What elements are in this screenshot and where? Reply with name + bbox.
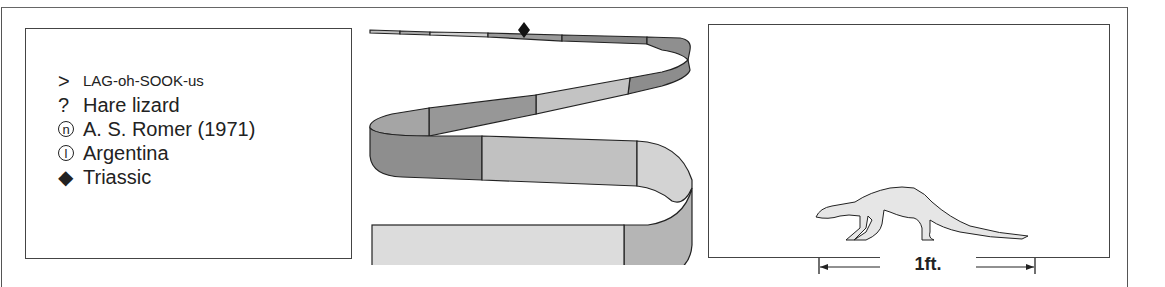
timeline-segment bbox=[372, 225, 624, 265]
timeline-segment bbox=[370, 128, 482, 180]
timeline-segment bbox=[370, 30, 400, 34]
facts-list: > LAG-oh-SOOK-us ? Hare lizard n A. S. R… bbox=[58, 69, 255, 189]
meaning-text: Hare lizard bbox=[83, 93, 180, 117]
fact-pronunciation: > LAG-oh-SOOK-us bbox=[58, 69, 255, 93]
timeline-segment bbox=[482, 136, 637, 186]
period-text: Triassic bbox=[83, 165, 151, 189]
scale-label: 1ft. bbox=[880, 255, 976, 273]
lagosuchus-silhouette bbox=[810, 176, 1040, 246]
pronunciation-text: LAG-oh-SOOK-us bbox=[83, 69, 204, 93]
geologic-timeline-ribbon bbox=[362, 20, 702, 265]
arrow-left-icon bbox=[820, 264, 828, 270]
location-text: Argentina bbox=[83, 141, 169, 165]
fact-location: l Argentina bbox=[58, 141, 255, 165]
fact-named-by: n A. S. Romer (1971) bbox=[58, 117, 255, 141]
timeline-segment bbox=[647, 37, 690, 60]
timeline-segment bbox=[536, 78, 630, 114]
pronunciation-icon: > bbox=[58, 69, 83, 93]
arrow-right-icon bbox=[1026, 264, 1034, 270]
period-diamond-icon: ◆ bbox=[58, 165, 83, 189]
timeline-segment bbox=[400, 31, 430, 35]
timeline-segment bbox=[628, 60, 690, 94]
named-by-text: A. S. Romer (1971) bbox=[83, 117, 255, 141]
location-icon: l bbox=[58, 145, 74, 161]
named-by-icon: n bbox=[58, 121, 74, 137]
timeline-segment bbox=[430, 32, 488, 37]
timeline-segment bbox=[637, 141, 692, 202]
meaning-icon: ? bbox=[58, 93, 83, 117]
timeline-segment bbox=[429, 95, 536, 136]
fact-meaning: ? Hare lizard bbox=[58, 93, 255, 117]
fact-period: ◆ Triassic bbox=[58, 165, 255, 189]
timeline-segment bbox=[562, 35, 647, 44]
